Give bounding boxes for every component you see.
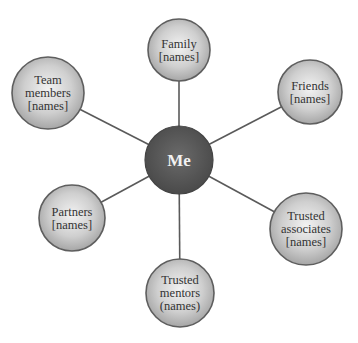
node-label: Family [161, 37, 197, 51]
node-label: Trusted [161, 273, 199, 287]
node-label: [names] [286, 235, 326, 249]
center-node: Me [145, 126, 213, 194]
node-label: [names] [290, 92, 330, 106]
node-partners: Partners[names] [39, 185, 105, 251]
node-label: associates [281, 222, 331, 236]
node-label: Team [34, 73, 62, 87]
node-label: mentors [160, 286, 200, 300]
node-label: (names) [160, 299, 200, 313]
node-label: Friends [291, 79, 329, 93]
node-friends: Friends[names] [278, 60, 342, 124]
node-label: Partners [52, 205, 93, 219]
node-trusted-associates: Trustedassociates[names] [270, 193, 342, 265]
node-label: [names] [28, 99, 68, 113]
center-label: Me [167, 151, 191, 170]
node-label: [names] [52, 218, 92, 232]
node-label: members [25, 86, 71, 100]
node-label: Trusted [287, 209, 325, 223]
node-family: Family[names] [148, 19, 210, 81]
node-team-members: Teammembers[names] [12, 57, 84, 129]
node-trusted-mentors: Trustedmentors(names) [146, 259, 214, 327]
node-label: [names] [159, 50, 199, 64]
relationship-diagram: Family[names]Friends[names]Trustedassoci… [0, 0, 358, 343]
